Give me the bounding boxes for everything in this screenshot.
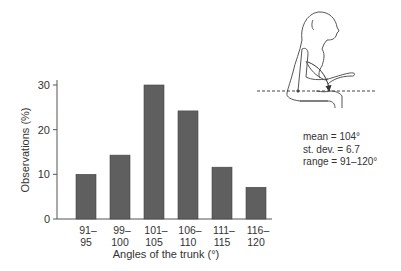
x-tick-label: 110 [180,236,197,248]
bar [110,155,130,219]
x-tick-label: 91– [79,224,97,236]
bars [76,85,266,219]
bar [76,174,96,219]
x-tick-label: 111– [213,224,235,236]
range-stat: range = 91–120° [303,156,377,169]
x-tick-label: 115 [214,236,231,248]
x-tick-label: 106– [178,224,202,236]
x-axis-label: Angles of the trunk (°) [113,248,220,260]
x-tick-label: 99– [113,224,131,236]
y-tick-label: 20 [38,124,50,136]
summary-statistics: mean = 104° st. dev. = 6.7 range = 91–12… [303,131,377,169]
x-tick-label: 105 [145,236,163,248]
x-tick-label: 120 [247,236,265,248]
y-tick-label: 0 [44,213,50,225]
x-tick-label: 95 [80,236,92,248]
x-tick-label: 116– [247,224,270,236]
x-tick-label: 101– [144,224,168,236]
mean-stat: mean = 104° [303,131,377,144]
bar [212,167,232,219]
y-axis-ticks: 0102030 [38,79,57,225]
seated-person-illustration [257,12,376,108]
x-axis-ticks: 91–9599–100101–105106–110111–115116–120 [79,224,269,248]
sd-stat: st. dev. = 6.7 [303,144,377,157]
x-tick-label: 100 [111,236,129,248]
y-axis-label: Observations (%) [19,108,31,193]
bar [178,111,198,219]
bar [246,187,266,219]
bar [144,85,164,219]
y-tick-label: 30 [38,79,50,91]
y-tick-label: 10 [38,168,50,180]
